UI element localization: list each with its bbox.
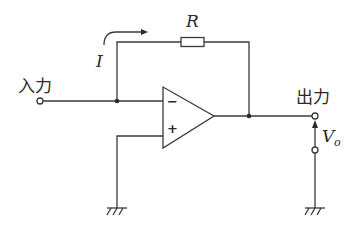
inverting-sign: −	[167, 94, 178, 109]
output-voltage-subscript: o	[334, 136, 341, 149]
input-label: 入力	[18, 76, 52, 96]
ground-left-icon	[107, 208, 127, 215]
output-label: 出力	[296, 87, 330, 107]
noninverting-sign: +	[167, 121, 178, 136]
current-label: I	[95, 51, 103, 71]
output-junction-dot	[247, 114, 252, 119]
current-arrow-head-icon	[141, 29, 148, 35]
input-terminal	[37, 98, 43, 104]
ground-right-icon	[305, 208, 325, 215]
circuit-diagram: 入力 R I − + 出力 V o	[0, 0, 357, 233]
output-voltage-arrow-head-icon	[312, 120, 318, 128]
output-ground-terminal	[312, 147, 318, 153]
output-terminal	[312, 113, 318, 119]
resistor-icon	[181, 38, 204, 47]
feedback-wire-right	[204, 42, 249, 116]
current-arrow-path	[104, 32, 144, 45]
resistor-label: R	[185, 11, 199, 31]
noninverting-ground-wire	[117, 136, 163, 208]
